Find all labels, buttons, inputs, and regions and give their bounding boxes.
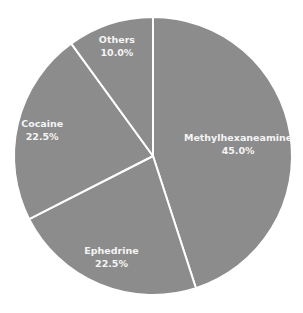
slice-label-percent: 45.0%: [222, 145, 255, 156]
slice-label-name: Others: [99, 34, 136, 45]
pie-chart: Methylhexaneamine45.0%Ephedrine22.5%Coca…: [0, 0, 303, 313]
slice-label-percent: 22.5%: [95, 258, 128, 269]
slice-label-percent: 22.5%: [26, 131, 59, 142]
slice-label-name: Methylhexaneamine: [184, 132, 292, 143]
slice-label-name: Ephedrine: [84, 245, 138, 256]
slice-label-percent: 10.0%: [100, 47, 133, 58]
slice-label-name: Cocaine: [21, 118, 63, 129]
pie-slices: [14, 17, 292, 295]
